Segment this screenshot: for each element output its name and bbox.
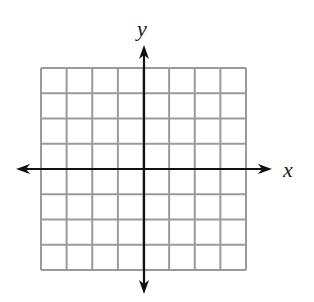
coordinate-grid-svg: y x [0,0,314,302]
coordinate-plane: y x [0,0,314,302]
x-axis-label: x [282,157,293,182]
axes [16,45,272,294]
y-axis-label: y [135,16,147,41]
